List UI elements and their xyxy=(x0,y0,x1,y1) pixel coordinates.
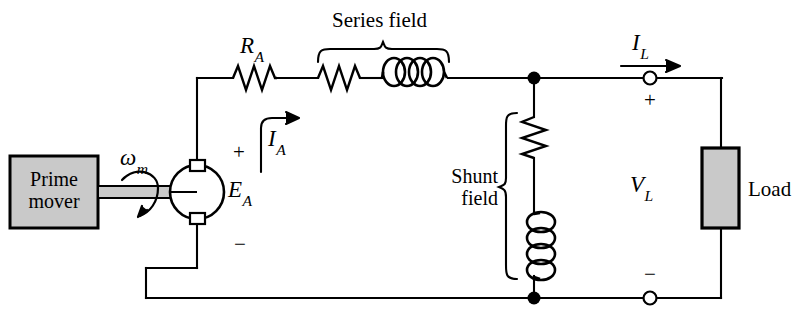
terminal-negative xyxy=(644,292,657,305)
armature-minus-sign: − xyxy=(234,232,246,257)
shunt-field-resistor xyxy=(522,117,546,158)
shunt-field-label-line2: field xyxy=(461,187,498,209)
shunt-field-inductor xyxy=(527,212,555,280)
load-box xyxy=(702,148,739,228)
ra-symbol: R xyxy=(240,33,254,58)
il-symbol: I xyxy=(632,30,640,55)
circuit-diagram-canvas: Prime mover ωm EA + − IA RA Series field… xyxy=(0,0,795,322)
ia-subscript: A xyxy=(276,141,286,158)
junction-dot-bottom xyxy=(528,292,541,305)
load-voltage-label: VL xyxy=(630,172,653,202)
omega-subscript: m xyxy=(137,160,148,177)
series-field-label: Series field xyxy=(332,8,427,33)
ea-symbol: E xyxy=(228,177,242,202)
shunt-field-label: Shunt field xyxy=(432,165,498,210)
series-field-inductor xyxy=(382,58,447,86)
generator-armature xyxy=(169,160,224,224)
prime-mover-label: Prime mover xyxy=(10,168,98,213)
brush-bottom xyxy=(190,213,205,224)
ea-subscript: A xyxy=(243,192,253,209)
il-subscript: L xyxy=(640,45,649,62)
prime-mover-label-line2: mover xyxy=(28,190,79,212)
junction-dot-top xyxy=(528,72,541,85)
ra-subscript: A xyxy=(255,48,265,65)
armature-plus-sign: + xyxy=(233,140,245,165)
armature-resistance-label: RA xyxy=(240,33,264,63)
shunt-field-brace xyxy=(499,113,517,279)
omega-symbol: ω xyxy=(120,145,136,170)
prime-mover-label-line1: Prime xyxy=(30,168,78,190)
armature-resistor-ra xyxy=(233,66,277,90)
shunt-field-label-line1: Shunt xyxy=(451,165,498,187)
omega-m-label: ωm xyxy=(120,145,148,175)
load-current-label: IL xyxy=(632,30,648,60)
brush-top xyxy=(190,160,205,171)
ia-symbol: I xyxy=(268,126,276,151)
vl-symbol: V xyxy=(630,172,644,197)
vl-subscript: L xyxy=(645,187,654,204)
armature-current-label: IA xyxy=(268,126,285,156)
series-field-resistor xyxy=(318,66,360,90)
terminal-positive xyxy=(644,72,657,85)
armature-emf-label: EA xyxy=(228,177,252,207)
load-label: Load xyxy=(748,177,791,202)
load-current-arrow xyxy=(621,60,680,72)
terminal-minus-sign: − xyxy=(644,262,656,287)
terminal-plus-sign: + xyxy=(644,88,656,113)
